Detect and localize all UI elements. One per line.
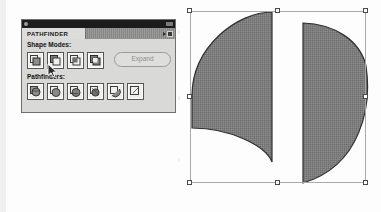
shape-mode-minus-front-button[interactable] bbox=[47, 52, 64, 69]
pathfinder-merge-button[interactable] bbox=[67, 83, 84, 100]
page-speck bbox=[178, 30, 180, 34]
pathfinder-crop-button[interactable] bbox=[87, 83, 104, 100]
selection-handle-bottom-right[interactable] bbox=[363, 180, 368, 185]
titlebar-right-icon bbox=[166, 22, 173, 26]
pathfinder-panel: PATHFINDER Shape Modes: bbox=[21, 19, 176, 113]
tab-pathfinder-label: PATHFINDER bbox=[22, 31, 68, 37]
intersect-icon bbox=[69, 54, 82, 67]
selection-handle-middle-right[interactable] bbox=[363, 94, 368, 99]
selection-handle-top-left[interactable] bbox=[187, 8, 192, 13]
pathfinder-minus-back-button[interactable] bbox=[127, 83, 144, 100]
page-edge-artifact bbox=[0, 0, 6, 212]
selection-handle-bottom-center[interactable] bbox=[275, 180, 280, 185]
menu-arrow-icon bbox=[163, 32, 166, 36]
window-dot-icon bbox=[24, 22, 28, 26]
shape-modes-label: Shape Modes: bbox=[27, 42, 71, 49]
selection-handle-middle-left[interactable] bbox=[187, 94, 192, 99]
merge-icon bbox=[69, 85, 82, 98]
expand-button[interactable]: Expand bbox=[114, 52, 171, 67]
pathfinder-divide-button[interactable] bbox=[27, 83, 44, 100]
pathfinders-row bbox=[27, 83, 144, 100]
tab-pathfinder[interactable]: PATHFINDER bbox=[22, 28, 86, 39]
artboard bbox=[186, 6, 372, 190]
shape-modes-row bbox=[27, 52, 104, 69]
expand-button-label: Expand bbox=[131, 56, 153, 63]
panel-body: Shape Modes: bbox=[22, 39, 175, 114]
page-speck bbox=[178, 96, 180, 100]
selection-bounding-box bbox=[190, 11, 366, 183]
panel-titlebar[interactable] bbox=[22, 20, 175, 28]
unite-icon bbox=[29, 54, 42, 67]
panel-menu-icon[interactable] bbox=[163, 30, 173, 37]
minus-front-icon bbox=[49, 54, 62, 67]
trim-icon bbox=[49, 85, 62, 98]
exclude-icon bbox=[89, 54, 102, 67]
screen-root: PATHFINDER Shape Modes: bbox=[0, 0, 381, 212]
selection-handle-bottom-left[interactable] bbox=[187, 180, 192, 185]
shape-mode-unite-button[interactable] bbox=[27, 52, 44, 69]
divide-icon bbox=[29, 85, 42, 98]
panel-tabbar: PATHFINDER bbox=[22, 28, 175, 39]
tabbar-filler bbox=[86, 28, 175, 39]
pathfinder-trim-button[interactable] bbox=[47, 83, 64, 100]
shape-mode-exclude-button[interactable] bbox=[87, 52, 104, 69]
selection-handle-top-center[interactable] bbox=[275, 8, 280, 13]
outline-icon bbox=[109, 85, 122, 98]
minus-back-icon bbox=[129, 85, 142, 98]
menu-lines-icon bbox=[167, 31, 173, 37]
crop-icon bbox=[89, 85, 102, 98]
shape-mode-intersect-button[interactable] bbox=[67, 52, 84, 69]
pathfinder-outline-button[interactable] bbox=[107, 83, 124, 100]
pathfinders-label: Pathfinders: bbox=[27, 74, 65, 81]
selection-handle-top-right[interactable] bbox=[363, 8, 368, 13]
page-speck bbox=[178, 158, 180, 162]
